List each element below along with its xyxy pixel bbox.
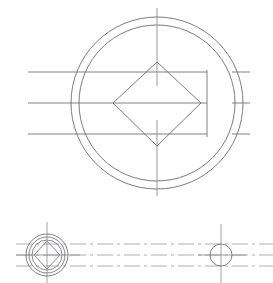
drawing-svg bbox=[0, 0, 273, 283]
left-detail-group bbox=[16, 222, 80, 283]
technical-drawing-canvas bbox=[0, 0, 273, 283]
right-detail-group bbox=[198, 224, 246, 283]
projection-lines-group bbox=[28, 72, 207, 134]
section-view-group bbox=[16, 222, 273, 283]
front-view-group bbox=[28, 8, 250, 196]
